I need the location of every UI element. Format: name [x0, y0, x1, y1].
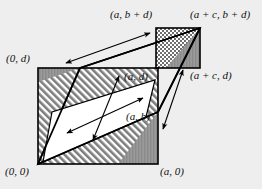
- label-top-right: (a + c, b + d): [190, 9, 250, 20]
- label-origin: (0, 0): [5, 166, 29, 177]
- label-inner-top: (a, d): [124, 71, 148, 82]
- label-right-mid: (a + c, d): [190, 70, 232, 81]
- label-inner-bottom: (a, b): [126, 111, 150, 122]
- label-left-top: (0, d): [6, 53, 30, 64]
- right-edge-arrow: [163, 70, 183, 129]
- diagram-svg: [0, 0, 262, 189]
- label-bottom-right: (a, 0): [160, 166, 184, 177]
- figure-canvas: (a, b + d) (a + c, b + d) (0, d) (a + c,…: [0, 0, 262, 189]
- label-top-mid: (a, b + d): [110, 9, 152, 20]
